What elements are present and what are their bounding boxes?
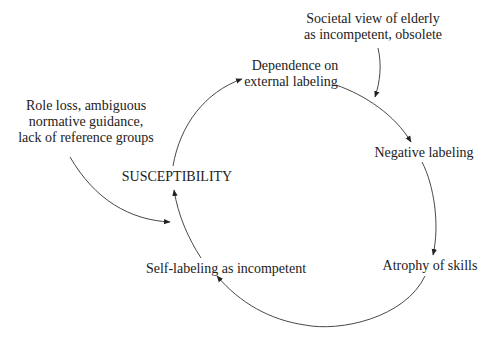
node-role-loss-line-2: normative guidance, bbox=[29, 114, 143, 129]
node-atrophy: Atrophy of skills bbox=[383, 258, 478, 273]
node-self-labeling-label: Self-labeling as incompetent bbox=[146, 261, 306, 276]
edge-role-loss-to-susceptibility bbox=[70, 157, 170, 222]
edge-dependence-to-negative bbox=[336, 85, 411, 142]
social-breakdown-diagram: Societal view of elderly as incompetent,… bbox=[0, 0, 497, 341]
edge-susceptibility-to-dependence bbox=[173, 79, 242, 166]
node-susceptibility-label: SUSCEPTIBILITY bbox=[122, 169, 232, 184]
edge-self-labeling-to-susceptibility bbox=[174, 190, 201, 258]
node-dependence-line-2: external labeling bbox=[244, 74, 338, 89]
node-negative-labeling: Negative labeling bbox=[374, 145, 473, 160]
node-negative-labeling-label: Negative labeling bbox=[374, 145, 473, 160]
node-societal-view: Societal view of elderly as incompetent,… bbox=[304, 11, 442, 42]
node-dependence-line-1: Dependence on bbox=[252, 58, 339, 73]
node-dependence: Dependence on external labeling bbox=[244, 58, 338, 89]
edge-negative-to-atrophy bbox=[422, 162, 436, 255]
node-role-loss: Role loss, ambiguous normative guidance,… bbox=[18, 98, 154, 145]
edge-atrophy-to-self-labeling bbox=[217, 276, 425, 327]
node-atrophy-label: Atrophy of skills bbox=[383, 258, 478, 273]
node-role-loss-line-1: Role loss, ambiguous bbox=[26, 98, 146, 113]
edge-societal-to-cycle bbox=[375, 48, 380, 97]
node-self-labeling: Self-labeling as incompetent bbox=[146, 261, 306, 276]
node-susceptibility: SUSCEPTIBILITY bbox=[122, 169, 232, 184]
node-societal-view-line-1: Societal view of elderly bbox=[306, 11, 439, 26]
node-role-loss-line-3: lack of reference groups bbox=[18, 130, 154, 145]
node-societal-view-line-2: as incompetent, obsolete bbox=[304, 27, 442, 42]
